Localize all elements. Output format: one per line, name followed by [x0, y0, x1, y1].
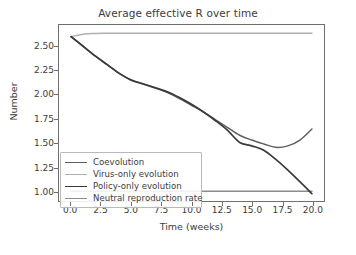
- y-tick-mark: [54, 192, 58, 193]
- legend-label: Coevolution: [93, 158, 144, 167]
- x-tick-mark: [70, 202, 71, 206]
- x-tick-mark: [222, 202, 223, 206]
- y-tick-label: 2.50: [20, 41, 54, 51]
- x-tick-mark: [192, 202, 193, 206]
- y-tick-mark: [54, 70, 58, 71]
- series-line: [71, 37, 312, 148]
- series-line: [71, 33, 312, 36]
- y-tick-mark: [54, 168, 58, 169]
- x-tick-label: 20.0: [303, 205, 323, 215]
- x-axis-label: Time (weeks): [58, 221, 325, 232]
- chart-legend: CoevolutionVirus-only evolutionPolicy-on…: [60, 152, 202, 208]
- y-axis-tick-labels: 1.001.251.501.752.002.252.50: [12, 24, 54, 202]
- legend-item[interactable]: Virus-only evolution: [65, 168, 196, 180]
- x-tick-mark: [131, 202, 132, 206]
- x-tick-mark: [313, 202, 314, 206]
- x-tick-mark: [100, 202, 101, 206]
- x-tick-label: 15.0: [242, 205, 262, 215]
- legend-item[interactable]: Coevolution: [65, 156, 196, 168]
- y-tick-mark: [54, 143, 58, 144]
- x-tick-label: 17.5: [272, 205, 292, 215]
- x-tick-label: 12.5: [212, 205, 232, 215]
- y-tick-label: 2.25: [20, 65, 54, 75]
- legend-line-icon: [65, 162, 87, 163]
- y-tick-mark: [54, 94, 58, 95]
- chart-title: Average effective R over time: [0, 7, 356, 19]
- y-tick-label: 1.75: [20, 114, 54, 124]
- legend-line-icon: [65, 186, 87, 187]
- legend-line-icon: [65, 198, 87, 199]
- y-tick-label: 2.00: [20, 89, 54, 99]
- x-tick-mark: [283, 202, 284, 206]
- y-tick-label: 1.50: [20, 138, 54, 148]
- legend-label: Neutral reproduction rate: [93, 194, 202, 203]
- legend-label: Virus-only evolution: [93, 170, 179, 179]
- legend-item[interactable]: Policy-only evolution: [65, 180, 196, 192]
- x-tick-mark: [161, 202, 162, 206]
- y-tick-label: 1.25: [20, 163, 54, 173]
- chart-figure: Average effective R over time Number 1.0…: [0, 0, 356, 255]
- legend-line-icon: [65, 174, 87, 175]
- y-tick-mark: [54, 119, 58, 120]
- y-tick-mark: [54, 46, 58, 47]
- y-tick-label: 1.00: [20, 187, 54, 197]
- legend-label: Policy-only evolution: [93, 182, 182, 191]
- x-tick-mark: [252, 202, 253, 206]
